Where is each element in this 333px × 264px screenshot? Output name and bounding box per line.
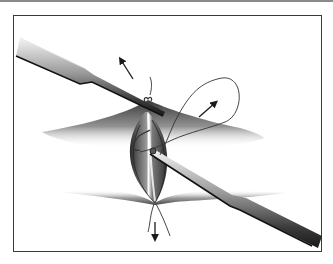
suture-illustration <box>0 0 333 264</box>
upper-left-forceps <box>16 38 165 116</box>
arrow-up-right <box>199 103 215 117</box>
arrow-up-left <box>121 60 133 79</box>
